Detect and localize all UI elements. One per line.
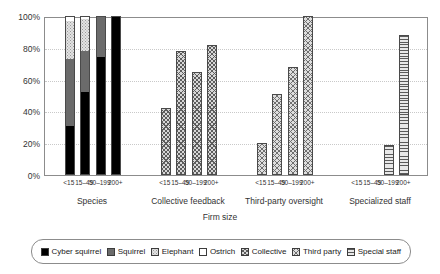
bar-segment — [257, 143, 267, 175]
x-axis-tick-label: 200+ — [204, 179, 219, 186]
x-axis-tick-label: 200+ — [108, 179, 123, 186]
bar-group-label: Third-party oversight — [245, 196, 323, 206]
bar-segment — [303, 16, 313, 175]
bar-segment — [272, 94, 282, 175]
bar-segment — [399, 35, 409, 175]
bar[interactable] — [384, 145, 394, 175]
bar[interactable] — [303, 16, 313, 175]
legend-label: Collective — [252, 247, 287, 256]
bar[interactable] — [161, 108, 171, 175]
bar-segment — [65, 16, 75, 21]
legend-swatch — [347, 248, 355, 256]
y-axis-tick-label: 60% — [0, 76, 40, 86]
legend-swatch — [241, 248, 249, 256]
bar-group — [141, 18, 237, 175]
bar-segment — [207, 45, 217, 175]
bar[interactable] — [272, 94, 282, 175]
bar-segment — [65, 21, 75, 59]
legend-label: Squirrel — [118, 247, 146, 256]
bar-segment — [192, 72, 202, 175]
bar-segment — [80, 19, 90, 51]
x-axis-tick-label: <15 — [255, 179, 266, 186]
bar-segment — [384, 145, 394, 175]
legend-label: Elephant — [162, 247, 194, 256]
bar[interactable] — [96, 16, 106, 175]
bar-group-label: Specialized staff — [349, 196, 411, 206]
bar-segment — [80, 16, 90, 19]
x-axis-tick-label: <15 — [63, 179, 74, 186]
bar-group — [333, 18, 429, 175]
bar[interactable] — [399, 35, 409, 175]
legend-item[interactable]: Squirrel — [107, 247, 145, 256]
legend-item[interactable]: Ostrich — [199, 247, 235, 256]
x-axis-tick-label: 200+ — [300, 179, 315, 186]
y-axis: 0%20%40%60%80%100% — [0, 0, 40, 200]
legend-swatch — [107, 248, 115, 256]
bar-group-label: Species — [77, 196, 107, 206]
legend-swatch — [151, 248, 159, 256]
bar[interactable] — [111, 16, 121, 175]
legend-item[interactable]: Special staff — [347, 247, 401, 256]
legend-swatch — [41, 248, 49, 256]
bar-segment — [65, 126, 75, 175]
bar-segment — [65, 59, 75, 126]
bar[interactable] — [176, 51, 186, 175]
bar-segment — [176, 51, 186, 175]
x-axis-tick-label: <15 — [351, 179, 362, 186]
chart-legend: Cyber squirrelSquirrelElephantOstrichCol… — [31, 239, 411, 264]
bar-group-label: Collective feedback — [151, 196, 225, 206]
chart-figure: 0%20%40%60%80%100% Firm size Cyber squir… — [0, 0, 440, 274]
legend-label: Third party — [303, 247, 341, 256]
legend-item[interactable]: Cyber squirrel — [41, 247, 101, 256]
bar[interactable] — [257, 143, 267, 175]
x-axis-title: Firm size — [0, 212, 440, 222]
legend-item[interactable]: Collective — [241, 247, 286, 256]
bar-segment — [96, 16, 106, 57]
y-axis-tick-label: 40% — [0, 107, 40, 117]
x-axis-tick-label: 200+ — [396, 179, 411, 186]
bar-group — [237, 18, 333, 175]
bar-segment — [111, 16, 121, 175]
legend-label: Ostrich — [210, 247, 235, 256]
legend-item[interactable]: Third party — [292, 247, 341, 256]
bar[interactable] — [207, 45, 217, 175]
bar-group — [45, 18, 141, 175]
y-axis-tick-label: 20% — [0, 139, 40, 149]
y-axis-tick-label: 100% — [0, 12, 40, 22]
legend-swatch — [199, 248, 207, 256]
legend-swatch — [292, 248, 300, 256]
plot-area — [44, 17, 428, 176]
legend-item[interactable]: Elephant — [151, 247, 193, 256]
bar-segment — [80, 92, 90, 175]
legend-label: Cyber squirrel — [51, 247, 101, 256]
bar-segment — [161, 108, 171, 175]
bar[interactable] — [192, 72, 202, 175]
bar[interactable] — [288, 67, 298, 175]
y-axis-tick-label: 0% — [0, 171, 40, 181]
bar-segment — [80, 51, 90, 92]
bar-segment — [96, 57, 106, 175]
bar-segment — [288, 67, 298, 175]
bar[interactable] — [80, 16, 90, 175]
y-axis-tick-label: 80% — [0, 44, 40, 54]
bar[interactable] — [65, 16, 75, 175]
x-axis-tick-label: <15 — [159, 179, 170, 186]
legend-label: Special staff — [358, 247, 401, 256]
